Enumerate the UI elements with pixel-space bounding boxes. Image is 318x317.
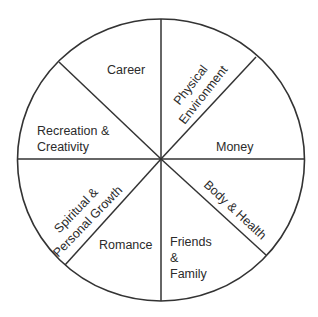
- segment-label-recreation-line2: Creativity: [37, 140, 90, 154]
- segment-label-recreation-line1: Recreation &: [37, 124, 110, 138]
- segment-label-career: Career: [107, 63, 145, 77]
- segment-label-friends-family-line1: Friends: [170, 235, 212, 249]
- segment-label-friends-family-line3: Family: [170, 267, 208, 281]
- wheel-of-life-diagram: Career Physical Environment Money Body &…: [0, 0, 318, 317]
- segment-label-money: Money: [216, 140, 254, 154]
- segment-label-romance: Romance: [99, 238, 153, 252]
- segment-label-friends-family-line2: &: [170, 251, 179, 265]
